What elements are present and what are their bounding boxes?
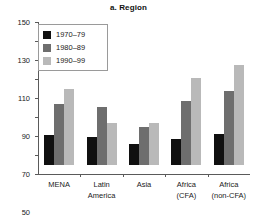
bar (44, 135, 54, 164)
x-axis-category-label: Asia (137, 180, 152, 191)
bar (54, 104, 64, 165)
y-axis-tick: 90 (35, 79, 38, 80)
x-axis-category-label-line: Africa (212, 180, 247, 191)
y-axis-tick: 30 (35, 136, 38, 137)
x-axis-category-label-line: Latin (88, 180, 116, 191)
y-axis-tick: −10 (35, 174, 38, 175)
bar (234, 65, 244, 165)
bar (214, 134, 224, 164)
y-axis-tick-label: 130 (17, 56, 30, 65)
legend-swatch-icon (43, 44, 51, 52)
legend-item[interactable]: 1980–89 (43, 41, 103, 54)
bar (64, 89, 74, 164)
bar (107, 123, 117, 165)
y-axis-tick-label: 150 (17, 18, 30, 27)
x-axis-category-label-line: (CFA) (177, 191, 197, 202)
x-axis-category-label: LatinAmerica (88, 180, 116, 201)
y-axis-tick-label: 110 (18, 94, 30, 103)
bar (181, 101, 191, 165)
x-axis-tick (208, 174, 209, 177)
x-axis-category-label-line: Africa (177, 180, 197, 191)
x-axis-category-label-line: America (88, 191, 116, 202)
bar (129, 144, 139, 165)
chart-legend: 1970–791980–891990–99 (38, 24, 108, 71)
bar (87, 137, 97, 165)
y-axis-tick: 10 (35, 155, 38, 156)
y-axis-tick: 150 (35, 22, 38, 23)
x-axis-tick (80, 174, 81, 177)
x-axis-category-label: MENA (48, 180, 70, 191)
bar (224, 91, 234, 164)
legend-item-label: 1990–99 (56, 56, 85, 65)
x-axis-category-label-line: MENA (48, 180, 70, 191)
legend-swatch-icon (43, 57, 51, 65)
legend-swatch-icon (43, 31, 51, 39)
legend-item[interactable]: 1990–99 (43, 54, 103, 67)
legend-item-label: 1970–79 (56, 30, 85, 39)
y-axis-tick: 70 (35, 98, 38, 99)
legend-item[interactable]: 1970–79 (43, 28, 103, 41)
bar (191, 78, 201, 164)
y-axis-tick-label: 50 (22, 208, 30, 217)
bar (149, 123, 159, 165)
chart-title: a. Region (0, 3, 257, 12)
legend-item-label: 1980–89 (56, 43, 85, 52)
x-axis-tick (123, 174, 124, 177)
y-axis-tick: 50 (35, 117, 38, 118)
x-axis-line (38, 174, 250, 175)
x-axis-category-label: Africa(non-CFA) (212, 180, 247, 201)
x-axis-category-label-line: (non-CFA) (212, 191, 247, 202)
bar (171, 139, 181, 165)
x-axis-category-label-line: Asia (137, 180, 152, 191)
bar (139, 127, 149, 165)
chart-figure: a. Region 1501301109070503010−10 MENALat… (0, 0, 257, 220)
x-axis-tick (165, 174, 166, 177)
y-axis-tick-label: 90 (22, 132, 30, 141)
bar (97, 107, 107, 165)
y-axis-tick-label: 70 (22, 170, 30, 179)
x-axis-category-label: Africa(CFA) (177, 180, 197, 201)
